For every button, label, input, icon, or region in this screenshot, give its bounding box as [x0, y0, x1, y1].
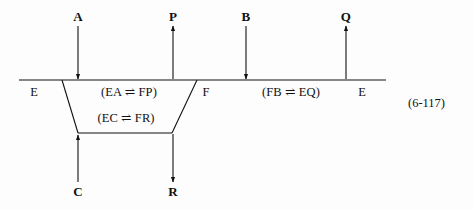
species-label-c: C [73, 185, 83, 198]
enzyme-state-e-left: E [30, 86, 38, 99]
complex-label-fb-eq: (FB ⇌ EQ) [262, 86, 320, 99]
enzyme-state-e-right: E [358, 86, 366, 99]
species-label-r: R [168, 185, 178, 198]
complex-label-ec-fr: (EC ⇌ FR) [97, 112, 154, 125]
species-label-a: A [73, 10, 83, 23]
enzyme-state-f-middle: F [203, 86, 210, 99]
figure-canvas: A P B Q C R E F E (EA ⇌ FP) (FB ⇌ EQ) (E… [0, 0, 474, 210]
species-label-b: B [242, 10, 251, 23]
species-label-q: Q [341, 10, 351, 23]
reaction-scheme-diagram [0, 0, 474, 210]
trapezoid-right-slant [172, 80, 197, 133]
complex-label-ea-fp: (EA ⇌ FP) [101, 86, 157, 99]
species-label-p: P [169, 10, 177, 23]
trapezoid-left-slant [62, 80, 78, 133]
equation-number: (6-117) [408, 96, 445, 111]
